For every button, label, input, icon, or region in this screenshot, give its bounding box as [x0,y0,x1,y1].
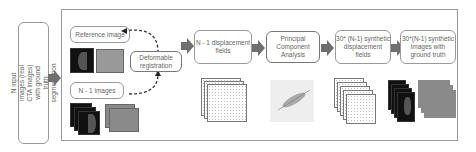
synthetic-fields-box: 30* (N-1) synthetic displacement fields [335,30,391,64]
arrow-icon [181,38,195,54]
pca-box: Principal Component Analysis [266,31,320,63]
pca-label: Principal Component Analysis [267,35,319,59]
displacement-field-stack-front [207,84,247,122]
arrow-icon [252,40,266,56]
deformable-registration-label: Deformable registration [131,54,181,70]
reference-ct-image [70,48,94,73]
synthetic-images-label: 30*(N-1) synthetic images with ground tr… [401,35,455,59]
synthetic-field-stack-front [346,94,376,124]
n-minus-1-images-label: N - 1 images [79,87,116,95]
synthetic-fields-label: 30* (N-1) synthetic displacement fields [336,35,390,59]
displacement-fields-box: N - 1 displacement fields [194,30,252,64]
synthetic-ct-stack-front [397,92,415,122]
arrow-icon [321,40,335,56]
input-images-box: N input images (real CTA images) with gr… [18,22,49,144]
n-minus-1-images-box: N - 1 images [70,82,124,99]
synthetic-images-box: 30*(N-1) synthetic images with ground tr… [400,30,456,64]
reference-image-label: Reference image [75,31,125,39]
arrow-icon [48,70,62,86]
n-minus-1-seg-stack-front [109,108,139,132]
n-minus-1-ct-stack-front [78,111,100,135]
synthetic-seg-stack-front [424,90,456,118]
deformable-registration-box: Deformable registration [130,51,182,72]
pca-scatter-plot [270,80,314,122]
displacement-fields-label: N - 1 displacement fields [195,39,251,55]
